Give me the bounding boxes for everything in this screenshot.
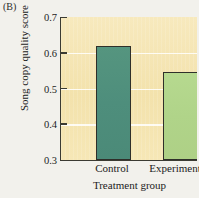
panel-label: (B)	[3, 1, 16, 12]
bar-control[interactable]	[96, 46, 131, 160]
y-tickmark	[61, 123, 67, 125]
y-tick-label: 0.5	[44, 83, 57, 94]
plot-area	[60, 17, 197, 160]
y-axis-tick-labels: 0.30.40.50.60.7	[33, 17, 57, 160]
y-tick-label: 0.6	[44, 47, 57, 58]
y-tick-label: 0.4	[44, 119, 57, 130]
y-tick-label: 0.3	[44, 155, 57, 166]
y-axis-title: Song copy quality score	[18, 0, 30, 130]
y-tick-label: 0.7	[44, 12, 57, 23]
y-tickmark	[61, 17, 67, 18]
x-axis-title: Treatment group	[60, 179, 199, 191]
y-tickmark	[61, 88, 67, 90]
x-tick-label-experimental: Experimental	[149, 162, 199, 174]
x-tick-label-control: Control	[95, 162, 129, 174]
figure-panel-b: (B) Song copy quality score 0.30.40.50.6…	[0, 0, 199, 198]
y-tickmark	[61, 52, 67, 54]
x-axis-tick-labels: ControlExperimental	[60, 162, 199, 178]
bar-experimental[interactable]	[163, 72, 198, 160]
